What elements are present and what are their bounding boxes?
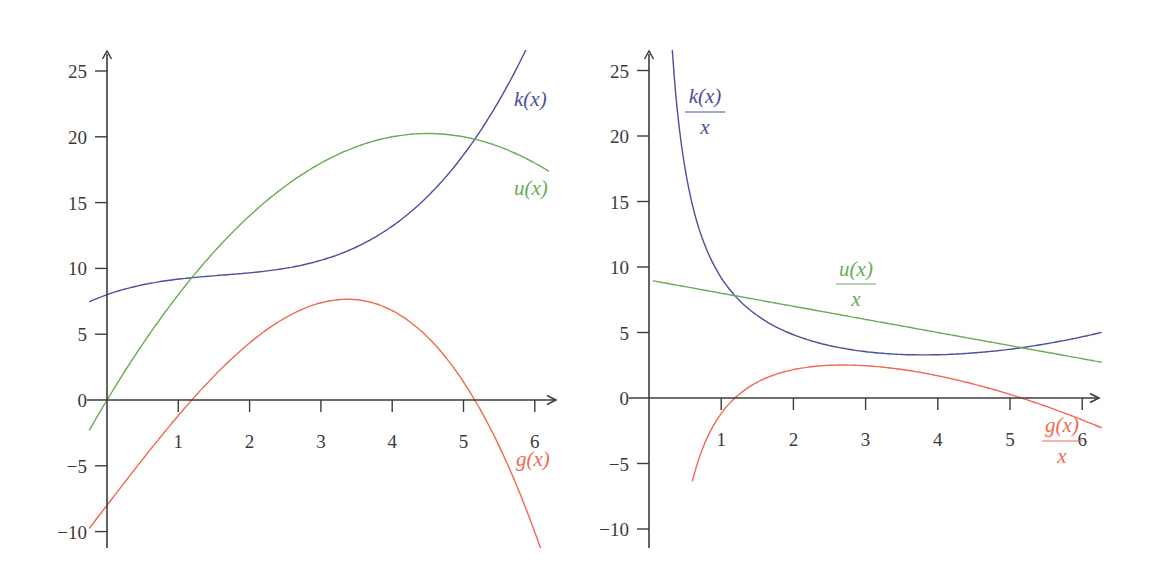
- y-tick-label: 15: [68, 193, 87, 214]
- x-tick-label: 2: [789, 429, 799, 450]
- y-tick-label: 10: [68, 258, 87, 279]
- y-tick-label: −10: [57, 522, 87, 543]
- y-tick-label: 5: [620, 323, 630, 344]
- y-tick-label: −5: [609, 454, 629, 475]
- label-g-den: x: [1056, 444, 1067, 468]
- label-g-over-x: g(x) x: [1042, 413, 1082, 468]
- y-tick-label: 20: [68, 127, 87, 148]
- label-u-num: u(x): [839, 257, 873, 281]
- y-tick-label: 25: [68, 61, 87, 82]
- label-k: k(x): [514, 87, 547, 111]
- label-g-num: g(x): [1045, 413, 1079, 437]
- right-axes: −10−50510152025123456: [599, 51, 1099, 548]
- curve-kx-over-x: [671, 27, 1102, 355]
- y-tick-label: 15: [610, 192, 629, 213]
- x-tick-label: 2: [245, 431, 255, 452]
- y-tick-label: 0: [620, 388, 630, 409]
- label-k-num: k(x): [689, 84, 722, 108]
- label-u-den: x: [850, 287, 861, 311]
- x-tick-label: 3: [316, 431, 326, 452]
- label-k-den: x: [699, 115, 710, 139]
- left-curves: [89, 5, 549, 573]
- y-tick-label: −10: [599, 519, 629, 540]
- y-tick-label: −5: [67, 456, 87, 477]
- label-u-over-x: u(x) x: [836, 257, 876, 311]
- figure: −10−50510152025123456 k(x) u(x) g(x) −10…: [0, 0, 1151, 581]
- y-tick-label: 10: [610, 257, 629, 278]
- x-tick-label: 1: [716, 429, 726, 450]
- left-chart: −10−50510152025123456 k(x) u(x) g(x): [57, 5, 556, 573]
- x-tick-label: 3: [861, 429, 871, 450]
- label-u: u(x): [514, 176, 548, 200]
- y-tick-label: 5: [78, 324, 88, 345]
- y-tick-label: 25: [610, 61, 629, 82]
- curve-gx-over-x: [692, 365, 1101, 481]
- curve-ux-over-x: [653, 281, 1102, 362]
- x-tick-label: 5: [459, 431, 469, 452]
- x-tick-label: 1: [174, 431, 184, 452]
- y-tick-label: 20: [610, 126, 629, 147]
- y-tick-label: 0: [78, 390, 88, 411]
- x-tick-label: 5: [1005, 429, 1015, 450]
- right-chart: −10−50510152025123456 k(x) x u(x) x g(x)…: [599, 27, 1101, 548]
- x-tick-label: 4: [387, 431, 397, 452]
- curve-kx: [89, 5, 549, 302]
- label-g: g(x): [516, 447, 550, 471]
- label-k-over-x: k(x) x: [685, 84, 725, 139]
- x-tick-label: 4: [933, 429, 943, 450]
